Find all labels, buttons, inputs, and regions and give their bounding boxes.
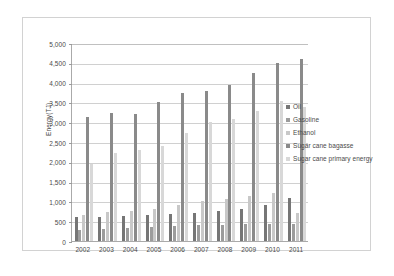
bar — [201, 201, 204, 241]
y-axis-tick-label: 1,500 — [23, 179, 66, 186]
x-axis-tick-label: 2004 — [118, 246, 142, 254]
y-axis-tick-mark — [69, 163, 72, 164]
x-axis-tick-label: 2008 — [213, 246, 237, 254]
bar — [98, 217, 101, 241]
y-axis-tick-mark — [69, 103, 72, 104]
bar — [161, 146, 164, 241]
y-axis-tick-mark — [69, 242, 72, 243]
y-axis-tick-label: 2,000 — [23, 159, 66, 166]
legend-item-label: Ethanol — [293, 129, 315, 136]
bar — [130, 211, 133, 241]
x-axis-tick-label: 2003 — [95, 246, 119, 254]
plot-area — [71, 44, 308, 242]
bar — [276, 63, 279, 241]
gridline — [72, 163, 308, 164]
chart-figure: Energy(TJ) 5,0004,5004,0003,5003,0002,50… — [0, 0, 394, 276]
bar — [114, 153, 117, 241]
legend-swatch-icon — [286, 118, 290, 122]
bar — [86, 117, 89, 241]
y-axis-tick-mark — [69, 222, 72, 223]
bar — [185, 133, 188, 241]
bar — [221, 225, 224, 241]
x-axis-tick-label: 2002 — [71, 246, 95, 254]
bar — [122, 216, 125, 241]
bar — [272, 193, 275, 241]
bar — [169, 214, 172, 241]
bar — [157, 102, 160, 241]
y-axis-tick-mark — [69, 64, 72, 65]
bar — [244, 224, 247, 241]
x-axis-tick-label: 2007 — [190, 246, 214, 254]
x-axis-tick-label: 2010 — [261, 246, 285, 254]
x-axis-tick-label: 2011 — [284, 246, 308, 254]
bar — [138, 150, 141, 241]
bar — [78, 230, 81, 241]
gridline — [72, 143, 308, 144]
bar — [177, 205, 180, 241]
bar — [256, 111, 259, 241]
bar — [209, 122, 212, 241]
gridline — [72, 123, 308, 124]
y-axis-tick-label: 4,500 — [23, 60, 66, 67]
bar — [252, 73, 255, 241]
bar — [288, 198, 291, 241]
y-axis-tick-mark — [69, 202, 72, 203]
y-axis-tick-label: 2,500 — [23, 140, 66, 147]
legend-item-label: Oil — [293, 103, 301, 110]
y-axis-tick-label: 1,000 — [23, 199, 66, 206]
bar — [173, 226, 176, 241]
y-axis-tick-mark — [69, 84, 72, 85]
bar — [280, 101, 283, 241]
bar — [193, 213, 196, 242]
legend-item-label: Sugar cane primary energy — [293, 155, 373, 162]
y-axis-tick-label: 0 — [23, 239, 66, 246]
y-axis-tick-label: 500 — [23, 219, 66, 226]
legend-item[interactable]: Sugar cane bagasse — [286, 139, 368, 152]
legend-item[interactable]: Ethanol — [286, 126, 368, 139]
bar — [205, 91, 208, 241]
x-axis-tick-label: 2009 — [237, 246, 261, 254]
chart-legend: OilGasolineEthanolSugar cane bagasseSuga… — [286, 100, 368, 165]
legend-item-label: Sugar cane bagasse — [293, 142, 354, 149]
figure-caption — [0, 268, 394, 276]
bar — [217, 211, 220, 241]
y-axis-tick-mark — [69, 183, 72, 184]
legend-item[interactable]: Gasoline — [286, 113, 368, 126]
legend-swatch-icon — [286, 157, 290, 161]
bar — [248, 196, 251, 241]
legend-swatch-icon — [286, 144, 290, 148]
bar — [228, 85, 231, 241]
legend-swatch-icon — [286, 131, 290, 135]
bar — [197, 225, 200, 241]
bar — [150, 227, 153, 241]
y-axis-tick-label: 5,000 — [23, 41, 66, 48]
y-axis-tick-label: 3,000 — [23, 120, 66, 127]
y-axis-tick-mark — [69, 143, 72, 144]
gridline — [72, 84, 308, 85]
bar — [75, 217, 78, 241]
bar — [181, 93, 184, 241]
bar — [90, 164, 93, 241]
bar — [153, 209, 156, 241]
legend-swatch-icon — [286, 105, 290, 109]
legend-item[interactable]: Oil — [286, 100, 368, 113]
bar — [232, 119, 235, 241]
bar — [106, 212, 109, 241]
gridline — [72, 183, 308, 184]
bar — [110, 113, 113, 241]
gridline — [72, 103, 308, 104]
bar — [292, 224, 295, 241]
bar — [225, 199, 228, 241]
bar — [146, 215, 149, 241]
bar — [102, 229, 105, 241]
bar — [264, 205, 267, 241]
y-axis-tick-mark — [69, 123, 72, 124]
gridline — [72, 64, 308, 65]
x-axis-tick-label: 2005 — [142, 246, 166, 254]
bar — [296, 213, 299, 241]
legend-item[interactable]: Sugar cane primary energy — [286, 152, 368, 165]
bar — [134, 114, 137, 241]
y-axis-tick-label: 3,500 — [23, 100, 66, 107]
x-axis-tick-label: 2006 — [166, 246, 190, 254]
bar — [82, 215, 85, 241]
